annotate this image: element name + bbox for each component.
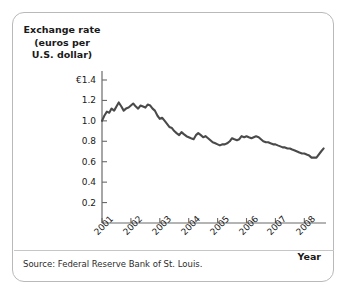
chart-figure: Exchange rate (euros per U.S. dollar) €1… (12, 12, 334, 282)
plot-area: €1.41.21.00.80.60.40.2 20012002200320042… (13, 13, 335, 283)
source-divider (14, 250, 334, 251)
y-tick-label: 0.6 (52, 157, 96, 167)
line-chart-svg (13, 13, 335, 283)
x-axis-title: Year (261, 251, 321, 264)
y-tick-label: €1.4 (52, 75, 96, 85)
y-tick-label: 0.4 (52, 177, 96, 187)
y-tick-label: 1.2 (52, 95, 96, 105)
y-tick-label: 1.0 (52, 116, 96, 126)
y-tick-label: 0.8 (52, 136, 96, 146)
y-axis (102, 71, 107, 223)
data-series-group (102, 102, 324, 157)
y-tick-label: 0.2 (52, 198, 96, 208)
data-line (102, 102, 324, 157)
source-note: Source: Federal Reserve Bank of St. Loui… (23, 259, 202, 269)
